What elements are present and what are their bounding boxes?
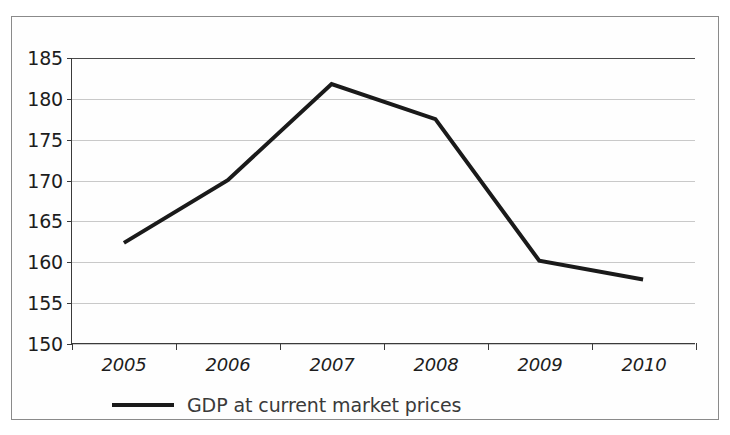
x-axis-label-2007: 2007 (309, 354, 354, 375)
legend-line-swatch (112, 403, 174, 407)
x-tick-2 (280, 343, 281, 350)
y-axis-label-165: 165 (27, 210, 63, 232)
plot-area: 150155160165170175180185 200520062007200… (71, 58, 695, 344)
series-layer (72, 58, 695, 343)
x-axis-label-2005: 2005 (101, 354, 146, 375)
x-tick-0 (72, 343, 73, 350)
series-line-gdp-at-current-market-prices (124, 84, 643, 279)
legend: GDP at current market prices (112, 394, 461, 416)
y-axis-label-185: 185 (27, 47, 63, 69)
legend-item-label: GDP at current market prices (187, 394, 461, 416)
x-tick-1 (176, 343, 177, 350)
y-axis-label-150: 150 (27, 333, 63, 355)
y-axis-label-160: 160 (27, 251, 63, 273)
y-axis-label-170: 170 (27, 170, 63, 192)
y-axis-label-155: 155 (27, 292, 63, 314)
x-axis-label-2009: 2009 (517, 354, 562, 375)
y-axis-label-180: 180 (27, 88, 63, 110)
chart-figure: 150155160165170175180185 200520062007200… (11, 16, 719, 420)
x-tick-5 (592, 343, 593, 350)
x-tick-4 (488, 343, 489, 350)
x-tick-3 (384, 343, 385, 350)
x-axis-label-2010: 2010 (621, 354, 666, 375)
x-axis-label-2008: 2008 (413, 354, 458, 375)
x-axis-label-2006: 2006 (205, 354, 250, 375)
y-axis-label-175: 175 (27, 129, 63, 151)
x-tick-6 (696, 343, 697, 350)
